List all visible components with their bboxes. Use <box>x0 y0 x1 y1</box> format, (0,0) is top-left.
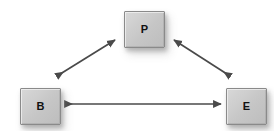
connector-b-p <box>57 40 115 76</box>
connector-p-e <box>174 40 230 76</box>
diagram-canvas: P B E <box>0 0 274 131</box>
node-b-label: B <box>37 101 45 112</box>
node-b: B <box>20 88 61 125</box>
node-e: E <box>226 88 267 125</box>
node-p-label: P <box>141 24 148 35</box>
node-p: P <box>124 11 165 48</box>
node-e-label: E <box>243 101 250 112</box>
